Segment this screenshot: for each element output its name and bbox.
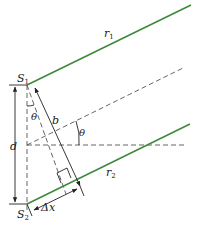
label-s2: S2 <box>17 208 29 222</box>
ray-r1 <box>27 5 191 85</box>
diagram-canvas: S1 S2 r1 r2 d b θ θ Δx <box>0 0 197 228</box>
ray-r2 <box>27 124 190 204</box>
theta-arc-left <box>27 105 34 106</box>
label-theta-left: θ <box>31 111 37 122</box>
label-delta-x: Δx <box>40 201 56 214</box>
label-theta-right: θ <box>79 127 85 138</box>
label-r2: r2 <box>106 166 116 180</box>
perpendicular-dashed <box>27 85 66 194</box>
label-s1: S1 <box>17 72 29 86</box>
center-ray <box>27 68 183 145</box>
label-d: d <box>10 140 17 153</box>
label-r1: r1 <box>104 27 114 41</box>
label-b: b <box>52 114 59 127</box>
diagram-svg: S1 S2 r1 r2 d b θ θ Δx <box>0 0 197 228</box>
construction-lines <box>27 68 186 210</box>
